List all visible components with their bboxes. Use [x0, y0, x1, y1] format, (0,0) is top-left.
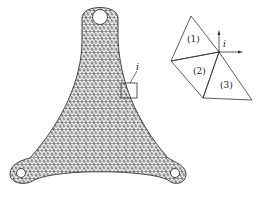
- element-label-1: (1): [187, 34, 200, 44]
- mesh-diagram: [0, 0, 264, 199]
- top-hole: [93, 10, 108, 25]
- element-label-2: (2): [193, 66, 206, 76]
- element-label-3: (3): [220, 80, 233, 90]
- inset-node-label: i: [223, 39, 226, 49]
- detail-inset: [171, 16, 252, 100]
- left-hole: [17, 169, 26, 178]
- mesh-body: [0, 0, 264, 199]
- right-hole: [171, 169, 180, 178]
- mesh-node-label: i: [136, 62, 139, 72]
